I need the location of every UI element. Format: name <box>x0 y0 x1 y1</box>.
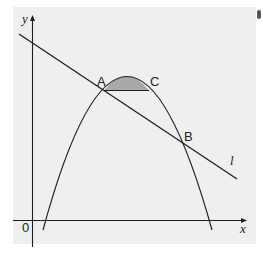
line-l-label: l <box>230 153 234 168</box>
diagram-canvas: y 0 x A C B l <box>0 0 263 256</box>
cropped-margin-mark <box>257 10 261 19</box>
point-b-label: B <box>184 129 193 144</box>
x-axis-label: x <box>239 221 246 236</box>
y-axis-label: y <box>20 11 28 26</box>
origin-label: 0 <box>22 220 29 235</box>
point-a-label: A <box>97 74 106 89</box>
point-c-label: C <box>150 74 159 89</box>
